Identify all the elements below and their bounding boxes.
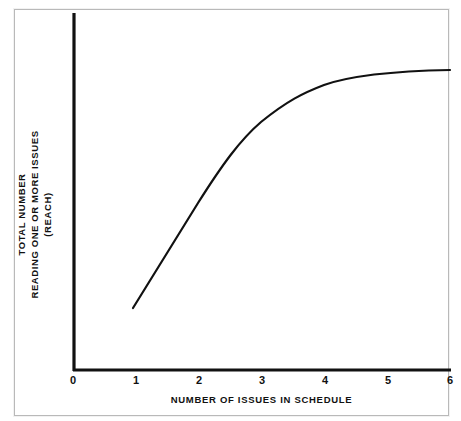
y-axis-title-line-2: READING ONE OR MORE ISSUES xyxy=(28,115,41,315)
reach-curve-plot xyxy=(0,0,461,421)
x-tick-label-6: 6 xyxy=(438,374,461,386)
x-tick-label-2: 2 xyxy=(187,374,211,386)
x-axis-title: NUMBER OF ISSUES IN SCHEDULE xyxy=(73,394,450,405)
chart-page: TOTAL NUMBER READING ONE OR MORE ISSUES … xyxy=(0,0,461,421)
y-axis-title: TOTAL NUMBER READING ONE OR MORE ISSUES … xyxy=(15,115,54,315)
x-tick-label-5: 5 xyxy=(376,374,400,386)
x-tick-label-1: 1 xyxy=(124,374,148,386)
x-tick-label-0: 0 xyxy=(61,374,85,386)
y-axis-title-line-1: TOTAL NUMBER xyxy=(15,115,28,315)
reach-curve-line xyxy=(133,70,450,308)
x-tick-label-4: 4 xyxy=(313,374,337,386)
y-axis-title-line-3: (REACH) xyxy=(41,115,54,315)
x-tick-label-3: 3 xyxy=(250,374,274,386)
